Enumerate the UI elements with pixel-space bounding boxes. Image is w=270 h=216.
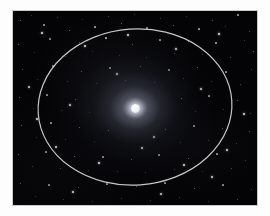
star-point bbox=[245, 160, 246, 161]
star-point bbox=[88, 170, 89, 171]
star-point bbox=[136, 186, 137, 187]
star-point bbox=[193, 125, 194, 126]
star-point bbox=[230, 57, 231, 58]
star-point bbox=[116, 73, 118, 75]
star-point bbox=[154, 82, 155, 83]
star-point bbox=[125, 80, 126, 81]
star-point bbox=[108, 16, 109, 17]
star-point bbox=[45, 151, 46, 152]
star-point bbox=[105, 37, 106, 38]
star-point bbox=[141, 147, 143, 149]
star-point bbox=[106, 183, 107, 184]
star-point bbox=[225, 71, 226, 72]
star-point bbox=[18, 44, 19, 45]
star-point bbox=[223, 109, 224, 110]
star-point bbox=[34, 52, 35, 53]
star-point bbox=[52, 65, 53, 66]
star-point bbox=[35, 196, 36, 197]
star-point bbox=[179, 197, 180, 198]
star-point bbox=[200, 88, 202, 90]
star-point bbox=[195, 111, 196, 112]
star-point bbox=[231, 168, 232, 169]
star-point bbox=[28, 86, 30, 88]
star-point bbox=[21, 125, 22, 126]
star-point bbox=[50, 122, 51, 123]
star-point bbox=[183, 78, 184, 79]
star-point bbox=[134, 14, 135, 15]
star-point bbox=[79, 42, 80, 43]
star-point bbox=[145, 172, 146, 173]
star-point bbox=[146, 27, 147, 28]
star-point bbox=[74, 156, 75, 157]
star-point bbox=[108, 130, 109, 131]
star-point bbox=[240, 84, 241, 85]
star-point bbox=[194, 188, 195, 189]
star-point bbox=[237, 14, 238, 15]
star-point bbox=[102, 156, 103, 157]
star-point bbox=[218, 33, 220, 35]
star-point bbox=[20, 20, 21, 21]
star-point bbox=[160, 18, 161, 19]
star-point bbox=[244, 40, 245, 41]
star-point bbox=[117, 171, 118, 172]
star-point bbox=[79, 127, 80, 128]
star-point bbox=[119, 55, 120, 56]
star-point bbox=[89, 112, 90, 113]
star-point bbox=[150, 200, 151, 201]
star-point bbox=[43, 24, 44, 25]
sky-panel bbox=[13, 11, 257, 205]
star-point bbox=[67, 81, 68, 82]
star-point bbox=[197, 67, 198, 68]
star-point bbox=[175, 48, 177, 50]
star-point bbox=[20, 183, 21, 184]
star-point bbox=[94, 26, 95, 27]
star-point bbox=[249, 131, 250, 132]
star-point bbox=[94, 141, 95, 142]
figure-root: Star with elliptical orbit on a starfiel… bbox=[0, 0, 270, 216]
star-point bbox=[18, 154, 19, 155]
star-point bbox=[36, 118, 38, 120]
star-point bbox=[132, 44, 133, 45]
star-point bbox=[46, 94, 47, 95]
star-point bbox=[96, 83, 97, 84]
star-point bbox=[222, 128, 223, 129]
star-point bbox=[69, 104, 71, 106]
star-point bbox=[140, 66, 141, 67]
star-point bbox=[174, 53, 175, 54]
star-point bbox=[164, 182, 165, 183]
star-point bbox=[243, 113, 245, 115]
star-point bbox=[121, 23, 122, 24]
star-point bbox=[215, 42, 216, 43]
star-point bbox=[208, 95, 209, 96]
star-point bbox=[225, 26, 226, 27]
star-point bbox=[33, 108, 34, 109]
star-point bbox=[121, 198, 122, 199]
star-point bbox=[165, 129, 166, 130]
star-point bbox=[98, 162, 100, 164]
star-point bbox=[251, 189, 252, 190]
star-point bbox=[36, 137, 37, 138]
star-point bbox=[81, 71, 82, 72]
star-point bbox=[49, 38, 50, 39]
star-point bbox=[226, 149, 228, 151]
star-point bbox=[222, 184, 223, 185]
star-point bbox=[249, 31, 250, 32]
star-point bbox=[202, 171, 203, 172]
star-point bbox=[65, 139, 66, 140]
star-point bbox=[198, 28, 199, 29]
star-point bbox=[153, 136, 155, 138]
star-point bbox=[168, 69, 169, 70]
star-point bbox=[146, 57, 147, 58]
star-point bbox=[48, 184, 49, 185]
star-point bbox=[158, 154, 159, 155]
star-point bbox=[181, 98, 182, 99]
star-point bbox=[65, 56, 66, 57]
star-point bbox=[31, 15, 32, 16]
star-point bbox=[55, 146, 57, 148]
star-point bbox=[37, 79, 38, 80]
central-star-core bbox=[131, 104, 140, 113]
star-point bbox=[131, 159, 132, 160]
star-point bbox=[183, 164, 185, 166]
star-point bbox=[78, 187, 79, 188]
star-point bbox=[72, 191, 74, 193]
